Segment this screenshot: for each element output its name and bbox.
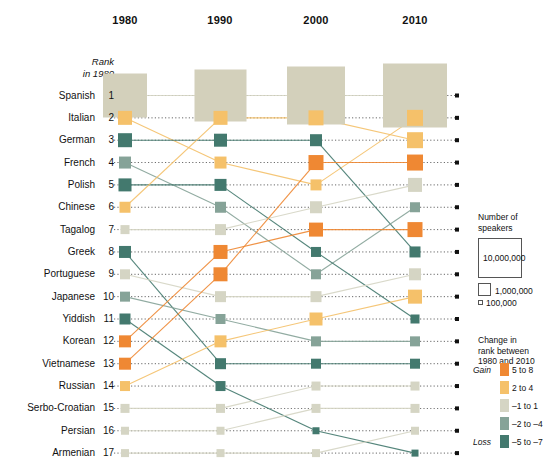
language-label: Yiddish <box>0 314 95 324</box>
marker-square <box>310 313 323 326</box>
legend-gain-label: Gain <box>473 365 499 376</box>
legend-swatch <box>500 363 509 376</box>
marker-square <box>215 202 226 213</box>
language-label: Persian <box>0 426 95 436</box>
marker-square <box>121 225 130 234</box>
marker-square <box>311 247 321 257</box>
marker-square <box>309 155 324 170</box>
marker-square <box>118 111 132 125</box>
legend-speakers-title-l1: Number of <box>478 212 518 222</box>
rank-number: 12 <box>98 336 114 346</box>
language-label: Tagalog <box>0 225 95 235</box>
marker-square <box>311 269 321 279</box>
marker-square <box>120 314 131 325</box>
language-label: German <box>0 135 95 145</box>
marker-square <box>119 178 132 191</box>
legend-box-100k <box>478 300 483 305</box>
legend-key-label: 2 to 4 <box>512 383 547 393</box>
marker-square <box>409 268 421 280</box>
marker-square <box>311 359 321 369</box>
marker-square <box>215 358 226 369</box>
marker-square <box>214 245 228 259</box>
marker-square <box>312 449 320 457</box>
marker-square <box>215 224 226 235</box>
marker-square <box>410 202 420 212</box>
rank-number: 15 <box>98 403 114 413</box>
language-label: Chinese <box>0 202 95 212</box>
marker-square <box>311 291 322 302</box>
marker-square <box>120 202 131 213</box>
legend-box-100k-label: 100,000 <box>486 298 536 309</box>
marker-square <box>407 132 423 148</box>
legend-loss-label: Loss <box>473 437 499 448</box>
marker-square <box>410 246 421 257</box>
marker-square <box>120 381 130 391</box>
legend-swatch <box>500 435 509 448</box>
rank-number: 16 <box>98 426 114 436</box>
marker-square <box>214 267 228 281</box>
marker-square <box>310 201 322 213</box>
legend-change-title-l2: rank between <box>478 346 529 356</box>
legend-change-title: Change in rank between 1980 and 2010 <box>478 335 536 367</box>
marker-square <box>312 382 321 391</box>
marker-square <box>215 335 227 347</box>
legend-box-10m-label: 10,000,000 <box>483 253 529 264</box>
marker-square <box>407 155 423 171</box>
rank-number: 4 <box>98 158 114 168</box>
marker-square <box>410 336 420 346</box>
marker-square <box>215 157 227 169</box>
legend-key-label: 5 to 8 <box>512 365 547 375</box>
marker-square <box>118 133 132 147</box>
marker-square <box>121 449 129 457</box>
legend-change-title-l1: Change in <box>478 335 517 345</box>
rank-number: 5 <box>98 180 114 190</box>
legend-box-1m-label: 1,000,000 <box>495 286 545 297</box>
marker-square <box>312 404 321 413</box>
marker-square <box>408 290 422 304</box>
language-label: Russian <box>0 381 95 391</box>
marker-square <box>311 336 321 346</box>
marker-square <box>408 178 422 192</box>
marker-square <box>411 427 419 435</box>
marker-square <box>120 292 130 302</box>
marker-square <box>119 335 131 347</box>
marker-square <box>119 246 131 258</box>
marker-square <box>311 179 322 190</box>
language-label: French <box>0 158 95 168</box>
marker-square <box>121 404 130 413</box>
language-label: Greek <box>0 247 95 257</box>
rank-number: 14 <box>98 381 114 391</box>
language-label: Vietnamese <box>0 359 95 369</box>
marker-square <box>407 110 423 126</box>
marker-square <box>216 314 226 324</box>
marker-square <box>411 404 420 413</box>
marker-square <box>216 381 226 391</box>
legend-swatch <box>500 399 509 412</box>
rank-number: 6 <box>98 202 114 212</box>
marker-square <box>412 450 419 457</box>
marker-square <box>313 427 320 434</box>
rank-number: 1 <box>98 91 114 101</box>
legend-key-label: –2 to –4 <box>512 419 547 429</box>
language-label: Serbo-Croatian <box>0 403 95 413</box>
rank-number: 3 <box>98 135 114 145</box>
marker-square <box>411 382 420 391</box>
legend-speakers-title-l2: speakers <box>478 223 513 233</box>
rank-number: 9 <box>98 269 114 279</box>
marker-square <box>310 134 322 146</box>
marker-square <box>309 110 324 125</box>
language-label: Armenian <box>0 448 95 458</box>
marker-square <box>410 359 420 369</box>
rank-number: 11 <box>98 314 114 324</box>
legend-key-label: –1 to 1 <box>512 401 547 411</box>
legend-swatch <box>500 417 509 430</box>
marker-square <box>217 449 225 457</box>
marker-square <box>119 358 131 370</box>
rank-number: 8 <box>98 247 114 257</box>
marker-square <box>120 269 130 279</box>
language-label: Polish <box>0 180 95 190</box>
legend-box-1m <box>478 283 491 296</box>
marker-square <box>214 111 228 125</box>
rank-number: 17 <box>98 448 114 458</box>
